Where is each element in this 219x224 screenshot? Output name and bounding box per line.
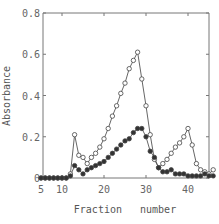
filled-circle-marker	[64, 176, 68, 180]
open-circle-marker	[98, 145, 102, 149]
open-circle-marker	[211, 168, 215, 172]
x-tick-label: 20	[98, 184, 110, 195]
filled-circle-marker	[148, 149, 152, 153]
open-circle-marker	[177, 141, 181, 145]
open-circle-marker	[144, 104, 148, 108]
open-circle-marker	[131, 58, 135, 62]
filled-circle-marker	[135, 126, 139, 130]
open-circle-marker	[169, 151, 173, 155]
open-circle-marker	[198, 168, 202, 172]
open-circle-marker	[89, 155, 93, 159]
filled-circle-marker	[177, 172, 181, 176]
filled-circle-marker	[173, 172, 177, 176]
open-circle-marker	[194, 161, 198, 165]
filled-circle-marker	[211, 174, 215, 178]
filled-circle-marker	[72, 163, 76, 167]
open-circle-marker	[110, 114, 114, 118]
filled-circle-marker	[77, 168, 81, 172]
y-axis-title: Absorbance	[1, 66, 12, 126]
open-circle-marker	[182, 135, 186, 139]
y-tick-label: 0.6	[22, 49, 40, 60]
filled-circle-marker	[110, 151, 114, 155]
series-lines	[41, 52, 213, 178]
open-circle-marker	[140, 77, 144, 81]
filled-circle-marker	[106, 155, 110, 159]
filled-circle-marker	[123, 139, 127, 143]
open-circle-marker	[77, 153, 81, 157]
filled-circle-marker	[102, 159, 106, 163]
filled-circle-marker	[144, 135, 148, 139]
y-tick-label: 0.4	[22, 91, 40, 102]
series-line-open	[41, 52, 213, 178]
filled-circle-marker	[131, 130, 135, 134]
absorbance-chart: 00.20.40.60.8 510203040 Fraction number …	[0, 0, 219, 224]
filled-circle-marker	[194, 174, 198, 178]
x-tick-label: 10	[56, 184, 68, 195]
filled-circle-marker	[60, 176, 64, 180]
open-circle-marker	[186, 126, 190, 130]
open-circle-marker	[135, 50, 139, 54]
filled-circle-marker	[203, 172, 207, 176]
x-tick-label: 30	[140, 184, 152, 195]
filled-circle-marker	[156, 166, 160, 170]
filled-circle-marker	[198, 174, 202, 178]
filled-circle-marker	[51, 176, 55, 180]
y-tick-label: 0.8	[22, 8, 40, 19]
filled-circle-marker	[68, 174, 72, 178]
open-circle-marker	[114, 104, 118, 108]
open-circle-marker	[127, 67, 131, 71]
filled-circle-marker	[152, 155, 156, 159]
filled-circle-marker	[114, 147, 118, 151]
open-circle-marker	[106, 126, 110, 130]
open-circle-marker	[72, 133, 76, 137]
open-circle-marker	[119, 91, 123, 95]
filled-circle-marker	[81, 172, 85, 176]
filled-circle-marker	[43, 176, 47, 180]
plot-frame	[43, 13, 209, 178]
filled-circle-marker	[169, 168, 173, 172]
x-tick-label: 40	[182, 184, 194, 195]
y-tick-label: 0.2	[22, 132, 40, 143]
filled-circle-marker	[89, 166, 93, 170]
filled-circle-marker	[98, 161, 102, 165]
filled-circle-marker	[56, 176, 60, 180]
open-circle-marker	[190, 143, 194, 147]
open-circle-marker	[123, 81, 127, 85]
filled-circle-marker	[93, 163, 97, 167]
filled-circle-marker	[165, 170, 169, 174]
series-markers	[39, 50, 216, 180]
filled-circle-marker	[39, 176, 43, 180]
series-line-filled	[41, 129, 213, 179]
y-axis-ticks: 00.20.40.60.8	[22, 8, 209, 184]
open-circle-marker	[81, 155, 85, 159]
open-circle-marker	[148, 133, 152, 137]
filled-circle-marker	[161, 170, 165, 174]
open-circle-marker	[93, 151, 97, 155]
x-tick-label: 5	[38, 184, 44, 195]
filled-circle-marker	[127, 137, 131, 141]
open-circle-marker	[161, 161, 165, 165]
filled-circle-marker	[119, 143, 123, 147]
open-circle-marker	[85, 161, 89, 165]
open-circle-marker	[165, 157, 169, 161]
filled-circle-marker	[182, 172, 186, 176]
filled-circle-marker	[207, 174, 211, 178]
filled-circle-marker	[186, 174, 190, 178]
filled-circle-marker	[47, 176, 51, 180]
filled-circle-marker	[190, 174, 194, 178]
filled-circle-marker	[85, 168, 89, 172]
x-axis-title: Fraction number	[74, 204, 176, 215]
filled-circle-marker	[140, 126, 144, 130]
open-circle-marker	[173, 145, 177, 149]
open-circle-marker	[102, 137, 106, 141]
